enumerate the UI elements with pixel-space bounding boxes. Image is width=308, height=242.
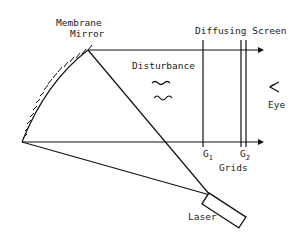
top-ray-arrowhead [258, 47, 264, 53]
label-diffusing-screen: Diffusing Screen [195, 25, 287, 36]
bottom-ray-arrowhead [258, 139, 264, 145]
label-grids: Grids [219, 162, 248, 173]
label-laser: Laser [188, 211, 217, 222]
membrane-mirror [22, 50, 88, 142]
label-g2: G2 [240, 148, 250, 162]
label-eye: Eye [268, 99, 285, 110]
laser-ray-bottom [22, 142, 210, 195]
label-g1: G1 [203, 148, 213, 162]
label-membrane: Membrane [56, 17, 102, 28]
laser-ray-top [88, 50, 210, 195]
label-mirror: Mirror [70, 28, 105, 39]
diagram-canvas: Membrane Mirror Diffusing Screen Disturb… [0, 0, 308, 242]
eye-icon [270, 82, 279, 92]
label-disturbance: Disturbance [132, 60, 195, 71]
wave-icon [152, 82, 170, 85]
wave-icon [154, 96, 172, 100]
mirror-hatching [23, 45, 92, 138]
